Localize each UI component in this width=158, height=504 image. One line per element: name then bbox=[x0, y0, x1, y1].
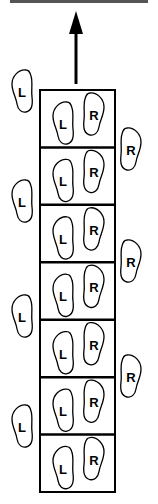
ladder: LRLRLRLRLRLRLR bbox=[40, 90, 115, 492]
direction-arrow-icon bbox=[69, 11, 83, 84]
outside-left-footprint-icon-label: L bbox=[18, 195, 26, 210]
right-footprint-icon-label: R bbox=[89, 338, 99, 353]
outside-left-footprint-icon-label: L bbox=[18, 420, 26, 435]
right-footprint-icon-label: R bbox=[89, 395, 99, 410]
right-footprint-icon-label: R bbox=[89, 165, 99, 180]
left-footprint-icon-label: L bbox=[59, 174, 67, 189]
outside-left-footprints: LLLL bbox=[12, 70, 32, 447]
outside-right-footprints: RRR bbox=[121, 128, 141, 397]
ladder-frame bbox=[40, 90, 115, 492]
outside-right-footprint-icon-label: R bbox=[126, 255, 136, 270]
right-footprint-icon-label: R bbox=[89, 453, 99, 468]
outside-left-footprint-icon-label: L bbox=[18, 85, 26, 100]
left-footprint-icon-label: L bbox=[59, 289, 67, 304]
left-footprint-icon-label: L bbox=[59, 232, 67, 247]
left-footprint-icon-label: L bbox=[59, 404, 67, 419]
outside-left-footprint-icon-label: L bbox=[18, 310, 26, 325]
ladder-footwork-diagram: LRLRLRLRLRLRLR LLLL RRR bbox=[0, 0, 158, 504]
right-footprint-icon-label: R bbox=[89, 280, 99, 295]
outside-right-footprint-icon-label: R bbox=[126, 143, 136, 158]
left-footprint-icon-label: L bbox=[59, 462, 67, 477]
left-footprint-icon-label: L bbox=[59, 347, 67, 362]
left-footprint-icon-label: L bbox=[59, 117, 67, 132]
right-footprint-icon-label: R bbox=[89, 223, 99, 238]
right-footprint-icon-label: R bbox=[89, 108, 99, 123]
outside-right-footprint-icon-label: R bbox=[126, 370, 136, 385]
